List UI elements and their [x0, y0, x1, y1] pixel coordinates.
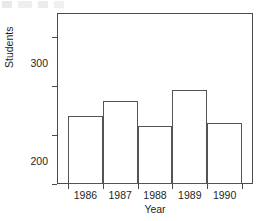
x-tick-label-1988: 1988: [143, 190, 166, 201]
y-tick-100: 100: [52, 135, 57, 136]
x-tick-1990: [207, 184, 208, 189]
bar-1989: [172, 90, 207, 184]
y-tick-300: 300: [52, 37, 57, 38]
x-tick-1988: [138, 184, 139, 189]
x-tick-label-1989: 1989: [178, 190, 201, 201]
bar-1987: [103, 101, 138, 184]
plot-area: 0100200300: [57, 13, 253, 184]
x-tick-1986: [68, 184, 69, 189]
y-tick-label-300: 300: [30, 58, 48, 69]
x-tick-label-1987: 1987: [109, 190, 132, 201]
y-axis-title: Students: [4, 27, 15, 68]
bar-1988: [138, 126, 173, 184]
bar-1990: [207, 123, 242, 184]
bar-1986: [68, 116, 103, 184]
bar-chart: Students 0100200300 19861987198819891990…: [0, 0, 264, 221]
x-tick-label-1986: 1986: [74, 190, 97, 201]
bars-layer: [57, 13, 253, 184]
x-tick-1989: [172, 184, 173, 189]
y-tick-0: 0: [52, 184, 57, 185]
x-axis-title: Year: [57, 204, 253, 215]
x-tick-1987: [103, 184, 104, 189]
y-tick-200: 200: [52, 86, 57, 87]
scan-artifact: [2, 1, 74, 8]
y-tick-label-200: 200: [30, 155, 48, 166]
x-tick-end: [242, 184, 243, 189]
x-tick-label-1990: 1990: [213, 190, 236, 201]
